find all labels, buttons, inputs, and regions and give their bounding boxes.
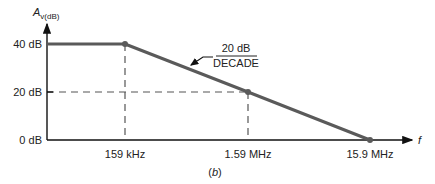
- slope-label-bottom: DECADE: [213, 57, 259, 69]
- x-tick-label-159khz: 159 kHz: [105, 148, 145, 160]
- breakpoint-15p9mhz: [367, 137, 373, 143]
- x-axis-label: f: [418, 134, 422, 146]
- breakpoint-159khz: [122, 41, 128, 47]
- y-tick-label-40: 40 dB: [13, 38, 42, 50]
- y-tick-label-0: 0 dB: [19, 134, 42, 146]
- slope-pointer-arrow: [191, 57, 213, 65]
- breakpoint-1p59mhz: [245, 89, 251, 95]
- x-tick-label-15p9mhz: 15.9 MHz: [346, 148, 393, 160]
- x-tick-label-1p59mhz: 1.59 MHz: [224, 148, 271, 160]
- y-tick-label-20: 20 dB: [13, 86, 42, 98]
- slope-label-top: 20 dB: [222, 42, 251, 54]
- y-axis-label: Av(dB): [32, 6, 60, 21]
- figure-caption: (b): [208, 166, 221, 178]
- bode-plot: Av(dB) 40 dB 20 dB 0 dB 159 kHz 1.59 MHz…: [0, 0, 435, 184]
